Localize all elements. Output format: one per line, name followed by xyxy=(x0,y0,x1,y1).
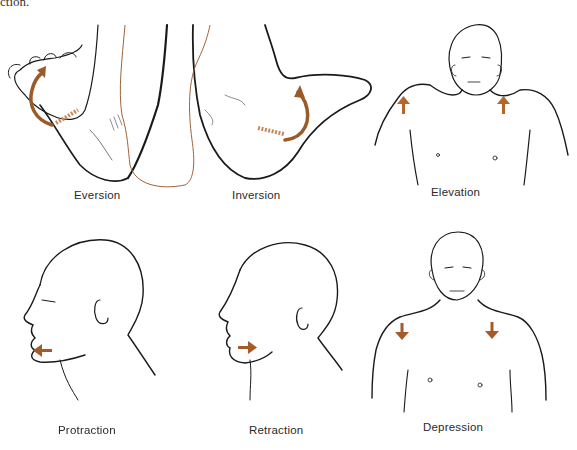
tendon-mark-icon xyxy=(258,128,284,134)
panel-protraction: Protraction xyxy=(0,220,200,450)
panel-retraction: Retraction xyxy=(190,220,380,450)
arrow-down-icon xyxy=(395,323,409,340)
label-depression: Depression xyxy=(423,421,483,433)
label-retraction: Retraction xyxy=(249,424,303,436)
tendon-mark-icon xyxy=(56,110,78,123)
torso-illustration xyxy=(360,220,577,450)
panel-depression: Depression xyxy=(360,220,577,450)
panel-feet: Eversion Inversion xyxy=(0,0,380,220)
label-inversion: Inversion xyxy=(232,189,280,201)
label-eversion: Eversion xyxy=(74,189,120,201)
label-protraction: Protraction xyxy=(58,424,116,436)
feet-illustration xyxy=(0,0,380,220)
label-elevation: Elevation xyxy=(431,186,480,198)
curved-arrow-icon xyxy=(285,92,308,140)
arrowhead-icon xyxy=(294,85,305,98)
arrow-right-icon xyxy=(238,341,257,354)
head-profile-illustration xyxy=(190,220,380,450)
arrow-left-icon xyxy=(33,344,52,357)
arrow-up-icon xyxy=(397,96,410,114)
panel-elevation: Elevation xyxy=(370,20,577,220)
head-profile-illustration xyxy=(0,220,200,450)
arrow-up-icon xyxy=(497,96,510,114)
arrow-down-icon xyxy=(485,322,499,339)
